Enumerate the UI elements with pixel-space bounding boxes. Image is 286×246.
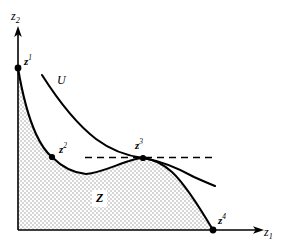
point-label-z4: z4 xyxy=(218,215,226,226)
figure-canvas xyxy=(0,0,286,246)
point-label-z2: z2 xyxy=(59,144,67,155)
figure-z-region: z2 z1 z1 z2 z3 z4 U Z xyxy=(0,0,286,246)
point-z1 xyxy=(15,65,22,72)
curve-label-u: U xyxy=(57,74,66,86)
axis-label-x: z1 xyxy=(264,226,273,238)
axis-label-y: z2 xyxy=(11,10,20,22)
region-label-z: Z xyxy=(92,190,107,207)
point-label-z1: z1 xyxy=(24,56,32,67)
point-z3 xyxy=(140,155,146,161)
point-label-z3: z3 xyxy=(135,140,143,151)
point-z2 xyxy=(49,154,55,160)
shaded-region-z xyxy=(18,68,213,230)
point-z4 xyxy=(210,227,217,234)
